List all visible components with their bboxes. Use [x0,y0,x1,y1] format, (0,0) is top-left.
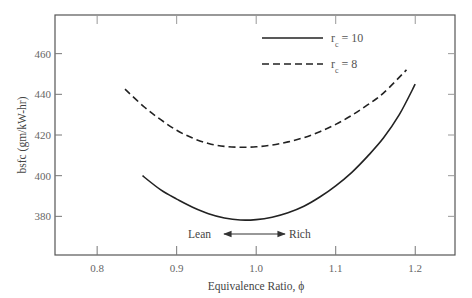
x-tick-label: 1.1 [329,262,343,274]
legend: rc = 10 rc = 8 [262,31,363,75]
x-tick-label: 0.9 [170,262,184,274]
x-axis-title: Equivalence Ratio, ϕ [208,280,304,293]
y-axis-ticks: 380400420440460 [35,48,456,223]
lean-rich-annotation: Lean Rich [188,228,311,240]
series-rc10-solid-curve [143,84,416,220]
x-tick-label: 0.8 [90,262,104,274]
x-axis-ticks: 0.80.91.01.11.2 [90,15,422,274]
y-tick-label: 440 [35,88,52,100]
y-axis-title: bsfc (gm/kW-hr) [16,96,29,173]
y-tick-label: 460 [35,48,52,60]
series-rc8-dashed-curve [125,70,407,147]
legend-label-rc8: rc = 8 [331,57,357,75]
rich-label: Rich [289,228,311,240]
x-tick-label: 1.0 [249,262,263,274]
legend-label-rc10: rc = 10 [331,31,363,49]
y-tick-label: 380 [35,210,52,222]
y-tick-label: 420 [35,129,52,141]
bsfc-chart: 0.80.91.01.11.2 380400420440460 rc = 10 … [0,0,472,298]
data-series [125,70,415,220]
lean-label: Lean [188,228,211,240]
y-tick-label: 400 [35,170,52,182]
x-tick-label: 1.2 [408,262,422,274]
